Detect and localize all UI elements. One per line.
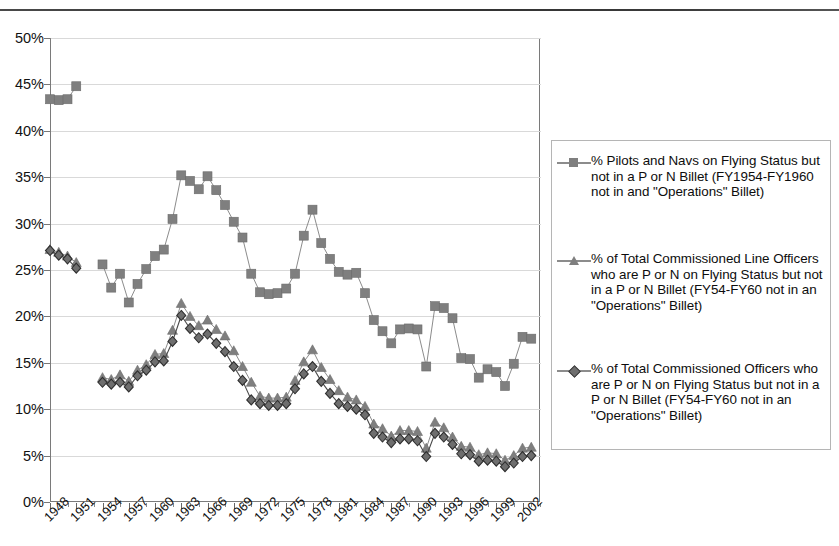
gridline (51, 38, 541, 39)
legend-entry-pilots-navs[interactable]: % Pilots and Navs on Flying Status but n… (557, 153, 827, 200)
y-axis-tick-label: 45% (0, 77, 44, 91)
gridline (51, 316, 541, 317)
gridline (51, 224, 541, 225)
legend-entry-line-officers[interactable]: % of Total Commissioned Line Officers wh… (557, 251, 827, 313)
legend-label-pilots-navs: % Pilots and Navs on Flying Status but n… (591, 153, 827, 200)
plot-area (50, 38, 540, 502)
gridline (51, 84, 541, 85)
legend: % Pilots and Navs on Flying Status but n… (551, 140, 831, 450)
gridline (51, 131, 541, 132)
y-axis-tick-label: 50% (0, 31, 44, 45)
y-axis-tick-label: 25% (0, 263, 44, 277)
y-axis-tick-label: 30% (0, 217, 44, 231)
y-axis-tick-label: 40% (0, 124, 44, 138)
gridline (51, 270, 541, 271)
gridline (51, 177, 541, 178)
chart-container: 0%5%10%15%20%25%30%35%40%45%50% 19481951… (0, 0, 839, 546)
diamond-marker (557, 363, 591, 379)
legend-label-line-officers: % of Total Commissioned Line Officers wh… (591, 251, 827, 313)
square-marker (557, 155, 591, 171)
y-axis-tick-label: 35% (0, 170, 44, 184)
y-axis-tick-label: 15% (0, 356, 44, 370)
y-axis-tick-label: 10% (0, 402, 44, 416)
legend-label-total-officers: % of Total Commissioned Officers who are… (591, 361, 827, 423)
triangle-marker (557, 253, 591, 269)
gridline (51, 456, 541, 457)
gridline (51, 409, 541, 410)
legend-entry-total-officers[interactable]: % of Total Commissioned Officers who are… (557, 361, 827, 423)
y-axis-tick-label: 5% (0, 449, 44, 463)
y-axis-tick-label: 0% (0, 495, 44, 509)
gridline (51, 363, 541, 364)
y-axis-tick-label: 20% (0, 309, 44, 323)
